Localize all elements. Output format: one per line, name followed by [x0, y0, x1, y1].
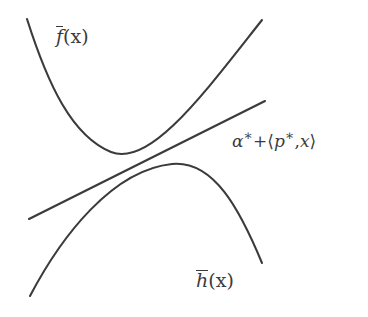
p-star-superscript: ∗: [285, 127, 295, 143]
p-symbol: p: [274, 131, 285, 151]
plus-operator: +: [253, 131, 267, 151]
alpha-symbol: α: [232, 131, 243, 151]
label-h-bar: h(x): [196, 270, 234, 290]
label-affine-function: α∗+⟨p∗,x⟩: [232, 128, 316, 150]
x-symbol: x: [300, 131, 310, 151]
h-bar-overline-symbol: h: [196, 270, 208, 290]
alpha-star-superscript: ∗: [243, 127, 253, 143]
curves-svg: [0, 0, 368, 317]
f-bar-overline-symbol: f: [56, 26, 63, 46]
affine-support-line: [29, 101, 265, 219]
angle-bracket-close: ⟩: [310, 131, 317, 151]
label-f-bar: f(x): [56, 26, 89, 46]
h-bar-argument: (x): [208, 269, 234, 291]
f-bar-argument: (x): [63, 25, 89, 47]
angle-bracket-open: ⟨: [267, 131, 274, 151]
figure-canvas: f(x) α∗+⟨p∗,x⟩ h(x): [0, 0, 368, 317]
